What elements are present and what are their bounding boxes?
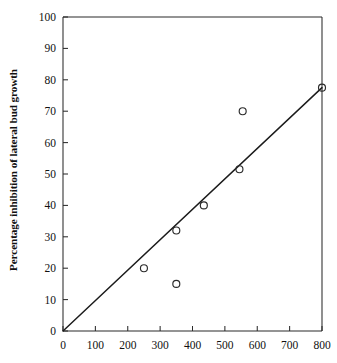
axes-frame	[63, 17, 322, 331]
fitted-trend-line	[63, 88, 322, 331]
y-tick-label: 10	[45, 294, 57, 306]
y-tick-label: 20	[45, 262, 57, 274]
y-tick-label: 40	[45, 199, 57, 211]
scatter-plot-figure: Percentage inhibition of lateral bud gro…	[0, 0, 337, 363]
x-tick-label: 800	[313, 339, 331, 351]
y-tick-label: 100	[39, 11, 57, 23]
y-tick-label: 80	[45, 74, 57, 86]
data-point-marker	[200, 202, 207, 209]
y-tick-label: 0	[50, 325, 56, 337]
x-axis-ticks: 0100200300400500600700800	[60, 326, 331, 351]
data-point-marker	[173, 280, 180, 287]
data-points	[140, 84, 325, 287]
x-tick-label: 400	[184, 339, 202, 351]
y-tick-label: 30	[45, 231, 57, 243]
y-tick-label: 70	[45, 105, 57, 117]
y-tick-label: 60	[45, 137, 57, 149]
x-tick-label: 700	[281, 339, 299, 351]
trend-line	[63, 88, 322, 331]
data-point-marker	[239, 108, 246, 115]
x-tick-label: 200	[119, 339, 137, 351]
y-axis-ticks: 0102030405060708090100	[39, 11, 68, 337]
y-tick-label: 90	[45, 42, 57, 54]
plot-canvas: 0102030405060708090100 01002003004005006…	[0, 0, 337, 363]
x-tick-label: 300	[152, 339, 170, 351]
data-point-marker	[173, 227, 180, 234]
x-tick-label: 100	[87, 339, 105, 351]
data-point-marker	[236, 166, 243, 173]
x-tick-label: 500	[216, 339, 234, 351]
x-tick-label: 0	[60, 339, 66, 351]
x-tick-label: 600	[249, 339, 267, 351]
data-point-marker	[140, 265, 147, 272]
y-tick-label: 50	[45, 168, 57, 180]
